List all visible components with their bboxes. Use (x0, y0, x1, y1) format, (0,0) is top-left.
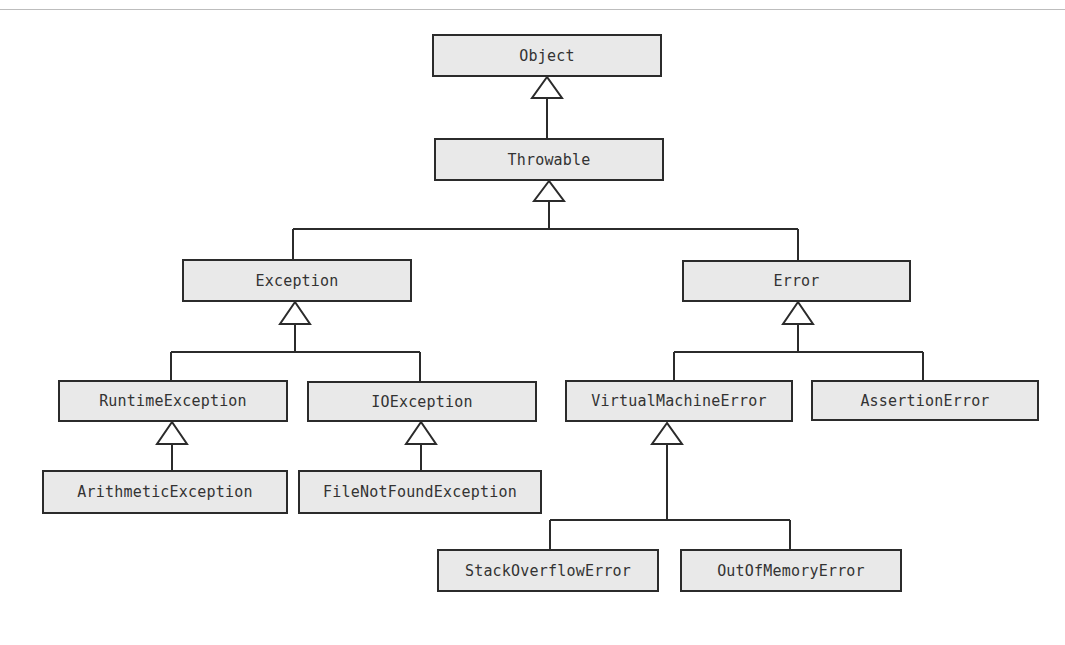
class-label: FileNotFoundException (323, 483, 517, 501)
class-box-arithmetic-exception: ArithmeticException (42, 470, 288, 514)
class-label: IOException (371, 393, 473, 411)
class-label: Exception (255, 272, 338, 290)
generalization-arrow-io-icon (406, 422, 436, 444)
class-box-virtual-machine-error: VirtualMachineError (565, 380, 793, 422)
class-label: Error (773, 272, 819, 290)
class-label: ArithmeticException (77, 483, 252, 501)
generalization-arrow-vme-icon (652, 423, 682, 444)
generalization-arrow-throwable-icon (534, 181, 564, 201)
class-label: Object (519, 47, 574, 65)
class-label: VirtualMachineError (591, 392, 766, 410)
generalization-arrow-object-icon (532, 77, 562, 98)
class-box-io-exception: IOException (307, 381, 537, 422)
class-label: Throwable (507, 151, 590, 169)
class-box-error: Error (682, 260, 911, 302)
class-box-stack-overflow-error: StackOverflowError (437, 549, 659, 592)
class-box-exception: Exception (182, 259, 412, 302)
class-box-runtime-exception: RuntimeException (58, 380, 288, 422)
class-hierarchy-diagram: Object Throwable Exception Error Runtime… (0, 0, 1065, 645)
class-box-throwable: Throwable (434, 138, 664, 181)
class-label: StackOverflowError (465, 562, 631, 580)
class-label: AssertionError (860, 392, 989, 410)
class-box-assertion-error: AssertionError (811, 380, 1039, 421)
generalization-arrow-error-icon (783, 302, 813, 324)
class-box-object: Object (432, 34, 662, 77)
generalization-arrow-exception-icon (280, 302, 310, 324)
class-label: RuntimeException (99, 392, 247, 410)
class-label: OutOfMemoryError (717, 562, 865, 580)
class-box-file-not-found-exception: FileNotFoundException (298, 470, 542, 514)
class-box-out-of-memory-error: OutOfMemoryError (680, 549, 902, 592)
generalization-arrow-runtime-icon (157, 422, 187, 444)
